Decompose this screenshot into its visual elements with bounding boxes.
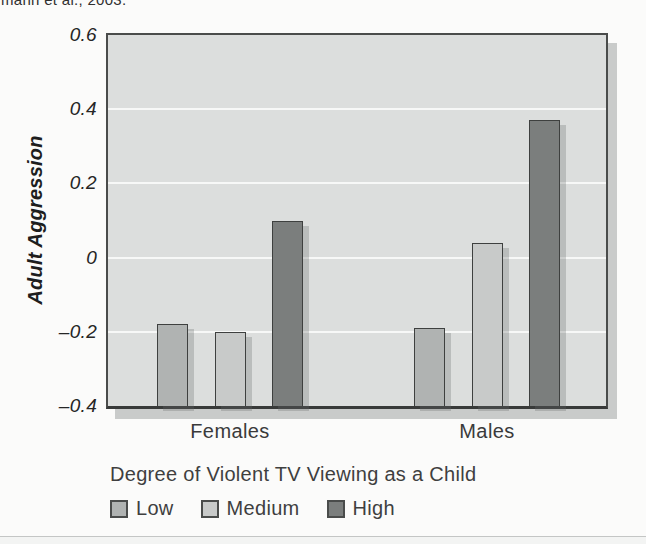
legend-label-high: High xyxy=(353,497,395,520)
x-category-label-males: Males xyxy=(387,420,587,443)
page: mann et al., 2003. Adult Aggression 0.60… xyxy=(0,0,646,544)
legend-item-high: High xyxy=(327,497,395,520)
bar-females-low xyxy=(157,324,188,406)
plot-area xyxy=(106,33,608,409)
legend-label-medium: Medium xyxy=(227,497,300,520)
y-tick-label-0.6: 0.6 xyxy=(0,24,97,46)
legend-label-low: Low xyxy=(136,497,174,520)
bar-females-medium xyxy=(215,332,246,406)
legend-swatch-medium xyxy=(201,500,219,518)
page-bottom-rule xyxy=(0,536,646,544)
legend-swatch-high xyxy=(327,500,345,518)
y-tick-label-0.2: 0.2 xyxy=(0,172,97,194)
legend-item-low: Low xyxy=(110,497,174,520)
caption-fragment: mann et al., 2003. xyxy=(1,0,126,8)
bar-males-high xyxy=(529,120,560,406)
legend-items: LowMediumHigh xyxy=(110,497,476,520)
y-tick-label-0: 0 xyxy=(0,247,97,269)
legend-item-medium: Medium xyxy=(201,497,300,520)
bar-males-medium xyxy=(472,243,503,406)
y-tick-label--0.2: –0.2 xyxy=(0,321,97,343)
y-tick-label-0.4: 0.4 xyxy=(0,98,97,120)
gridline-0.4 xyxy=(108,108,606,110)
bar-females-high xyxy=(272,221,303,407)
legend-swatch-low xyxy=(110,500,128,518)
legend: Degree of Violent TV Viewing as a Child … xyxy=(110,463,476,520)
x-category-label-females: Females xyxy=(130,420,330,443)
y-tick-label--0.4: –0.4 xyxy=(0,395,97,417)
legend-title: Degree of Violent TV Viewing as a Child xyxy=(110,463,476,486)
bar-males-low xyxy=(414,328,445,406)
